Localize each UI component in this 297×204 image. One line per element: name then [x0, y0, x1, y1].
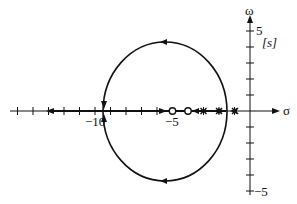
locus-arrow-bottom-icon	[160, 178, 167, 184]
real-tick-label-neg10: −10	[85, 114, 105, 129]
locus-arrow-neg-inf-icon	[46, 108, 54, 114]
real-axis-arrow-icon	[272, 108, 280, 114]
imag-axis-label: ω	[245, 3, 254, 18]
root-locus-plot: −10 −5 5 −5 σ ω [s]	[0, 0, 297, 204]
real-tick-label-neg5: −5	[165, 114, 179, 129]
locus-arrow-upper-left-icon	[101, 101, 107, 109]
zero-marker-icon	[185, 108, 191, 114]
locus-arrow-to-zero2-icon	[192, 108, 199, 114]
locus-arrow-top-icon	[160, 39, 167, 45]
plane-label: [s]	[262, 35, 277, 50]
imag-tick-label-neg5: −5	[254, 184, 268, 199]
real-axis-label: σ	[283, 103, 290, 118]
